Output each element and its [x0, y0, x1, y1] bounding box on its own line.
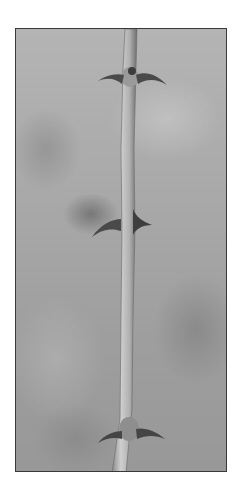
thorn-top-left	[98, 74, 124, 84]
thorn-bottom-right	[136, 428, 165, 439]
thorn-middle-right	[133, 209, 152, 235]
thorn-top-right	[136, 73, 167, 85]
thorny-stem-illustration	[16, 29, 227, 472]
stem	[112, 29, 137, 472]
thorn-middle-left	[92, 219, 121, 237]
stem-photograph	[15, 28, 227, 472]
